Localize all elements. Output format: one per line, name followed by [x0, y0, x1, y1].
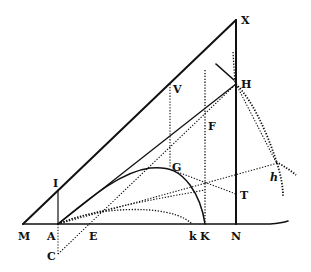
label-F: F	[208, 120, 216, 133]
line-M-X	[23, 20, 236, 224]
label-X: X	[241, 14, 250, 27]
label-G: G	[172, 161, 181, 174]
label-H: H	[241, 78, 251, 91]
label-V: V	[172, 83, 182, 96]
label-I: I	[53, 177, 58, 190]
label-K: K	[200, 230, 210, 243]
trajectory-curve-A-K	[58, 168, 205, 224]
solid-stub-above-H	[216, 64, 234, 80]
label-A: A	[46, 230, 56, 243]
label-k: k	[189, 230, 197, 243]
dotted-H-h	[236, 84, 276, 162]
dotted-C-H	[58, 84, 236, 254]
label-E: E	[89, 230, 97, 243]
baseline-extension	[236, 221, 288, 224]
label-M: M	[18, 230, 30, 243]
label-N: N	[231, 230, 241, 243]
label-T: T	[240, 189, 249, 202]
label-h: h	[270, 171, 278, 184]
label-C: C	[47, 250, 56, 263]
geometric-figure: X H V F G I T h M A E k K N C	[0, 0, 311, 272]
dotted-G-T	[172, 170, 236, 194]
